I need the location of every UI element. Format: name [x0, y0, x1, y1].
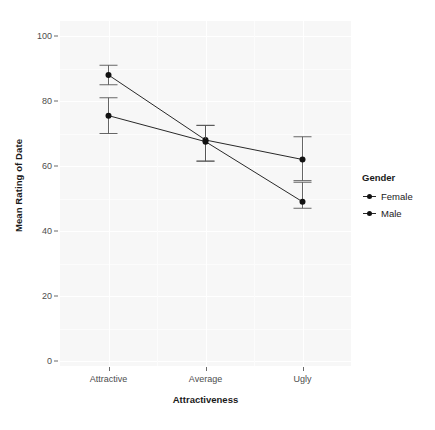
x-tick-label-average: Average — [189, 374, 222, 384]
legend-item-female[interactable]: Female — [361, 188, 433, 205]
legend-label: Male — [378, 208, 402, 219]
legend-key-dot — [367, 194, 372, 199]
legend-items: FemaleMale — [361, 188, 433, 222]
series-layer — [60, 21, 351, 366]
legend-title: Gender — [361, 172, 433, 183]
legend-key-icon — [361, 205, 378, 222]
plot-panel — [60, 21, 351, 366]
plot-figure: Mean Rating of Date 020406080100 Attract… — [0, 0, 435, 430]
series-male — [100, 98, 312, 209]
y-tick-mark-100 — [54, 36, 58, 37]
data-point — [300, 199, 306, 205]
series-female — [100, 65, 312, 180]
y-tick-label-80: 80 — [42, 96, 52, 106]
x-tick-mark-attractive — [109, 367, 110, 371]
x-axis-title: Attractiveness — [60, 394, 351, 405]
y-tick-label-0: 0 — [47, 356, 52, 366]
x-tick-label-attractive: Attractive — [90, 374, 128, 384]
y-axis-tick-labels: 020406080100 — [22, 0, 52, 400]
data-point — [300, 157, 306, 163]
x-tick-label-ugly: Ugly — [293, 374, 311, 384]
y-tick-mark-0 — [54, 361, 58, 362]
x-tick-mark-ugly — [303, 367, 304, 371]
x-tick-mark-average — [206, 367, 207, 371]
y-tick-mark-20 — [54, 296, 58, 297]
y-tick-mark-60 — [54, 166, 58, 167]
legend-label: Female — [378, 191, 413, 202]
legend-item-male[interactable]: Male — [361, 205, 433, 222]
y-tick-mark-80 — [54, 101, 58, 102]
data-point — [203, 139, 209, 145]
y-tick-label-60: 60 — [42, 161, 52, 171]
y-tick-label-40: 40 — [42, 226, 52, 236]
data-point — [106, 113, 112, 119]
legend-key-icon — [361, 188, 378, 205]
legend-key-dot — [367, 211, 372, 216]
legend: Gender FemaleMale — [361, 172, 433, 222]
y-tick-label-100: 100 — [37, 31, 52, 41]
y-tick-label-20: 20 — [42, 291, 52, 301]
data-point — [106, 72, 112, 78]
y-tick-mark-40 — [54, 231, 58, 232]
